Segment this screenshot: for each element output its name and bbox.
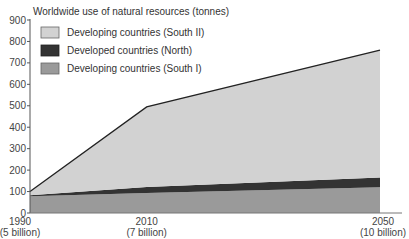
- x-axis-ticks: 1990(5 billion)2010(7 billion)2050(10 bi…: [0, 216, 406, 238]
- x-tick-year: 1990: [9, 216, 32, 227]
- stacked-areas: [30, 50, 380, 213]
- y-tick-label: 300: [9, 143, 26, 154]
- chart-title: Worldwide use of natural resources (tonn…: [33, 6, 229, 17]
- x-tick-year: 2050: [372, 216, 395, 227]
- y-tick-label: 800: [9, 36, 26, 47]
- y-tick-label: 400: [9, 122, 26, 133]
- legend-swatch-north: [41, 45, 59, 56]
- x-tick-year: 2010: [136, 216, 159, 227]
- y-tick-label: 200: [9, 165, 26, 176]
- legend-swatch-south-i: [41, 63, 59, 74]
- legend-label-north: Developed countries (North): [67, 45, 192, 56]
- legend-swatch-south-ii: [41, 27, 59, 38]
- y-tick-label: 100: [9, 186, 26, 197]
- y-tick-label: 900: [9, 15, 26, 26]
- y-tick-label: 600: [9, 79, 26, 90]
- x-tick-population: (10 billion): [360, 227, 406, 238]
- x-tick-population: (7 billion): [126, 227, 167, 238]
- chart-canvas: 0100200300400500600700800900 1990(5 bill…: [0, 0, 409, 239]
- legend-label-south-ii: Developing countries (South II): [67, 27, 204, 38]
- legend-label-south-i: Developing countries (South I): [67, 63, 202, 74]
- y-tick-label: 700: [9, 57, 26, 68]
- y-tick-label: 500: [9, 100, 26, 111]
- y-axis-ticks: 0100200300400500600700800900: [9, 15, 30, 219]
- legend: Developing countries (South II) Develope…: [41, 27, 204, 74]
- x-tick-population: (5 billion): [0, 227, 40, 238]
